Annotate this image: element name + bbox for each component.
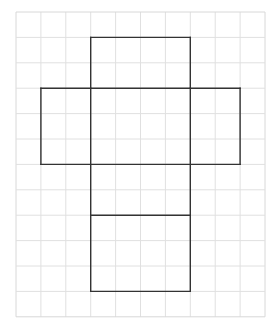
cube-net-diagram xyxy=(0,0,277,334)
